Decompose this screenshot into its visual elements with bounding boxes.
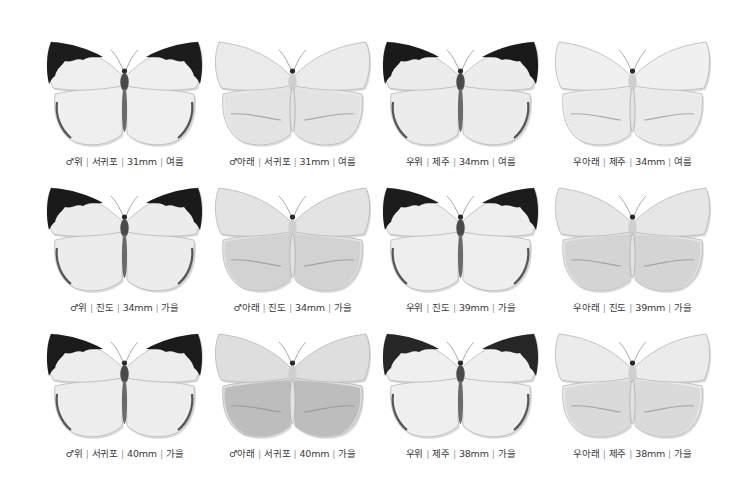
caption-separator: |: [157, 156, 166, 167]
butterfly-image: [373, 322, 548, 447]
wing-side: 아래: [582, 302, 600, 313]
wing-side: 위: [74, 448, 83, 459]
butterfly-image: [37, 30, 212, 155]
wing-size: 39mm: [635, 302, 665, 313]
caption-separator: |: [489, 156, 498, 167]
caption-separator: |: [450, 448, 459, 459]
caption-separator: |: [286, 302, 295, 313]
specimen-plate: ♂위|서귀포|31mm|여름: [0, 0, 751, 493]
sex-symbol: ♂: [66, 156, 74, 167]
caption-separator: |: [423, 156, 432, 167]
specimen-cell-r3-c1: ♂위|서귀포|40mm|가을: [37, 322, 212, 468]
caption-separator: |: [600, 156, 609, 167]
butterfly-image: [205, 322, 380, 447]
locality: 제주: [432, 448, 450, 459]
season: 가을: [338, 448, 356, 459]
caption-separator: |: [329, 448, 338, 459]
wing-size: 40mm: [299, 448, 329, 459]
butterfly-image: [545, 322, 720, 447]
season: 가을: [498, 302, 516, 313]
specimen-cell-r2-c1: ♂위|진도|34mm|가을: [37, 176, 212, 322]
caption-separator: |: [626, 448, 635, 459]
specimen-cell-r1-c4: 우아래|제주|34mm|여름: [545, 30, 720, 176]
locality: 서귀포: [92, 448, 118, 459]
caption-separator: |: [114, 302, 123, 313]
caption-separator: |: [489, 448, 498, 459]
caption-separator: |: [600, 302, 609, 313]
wing-size: 38mm: [635, 448, 665, 459]
butterfly-image: [545, 176, 720, 301]
wing-side: 아래: [242, 302, 260, 313]
wing-side: 위: [78, 302, 87, 313]
specimen-cell-r2-c4: 우아래|진도|39mm|가을: [545, 176, 720, 322]
specimen-caption: 우아래|제주|38mm|가을: [545, 446, 720, 460]
locality: 제주: [609, 156, 627, 167]
wing-side: 위: [414, 156, 423, 167]
specimen-caption: ♂위|서귀포|40mm|가을: [37, 446, 212, 460]
caption-separator: |: [450, 302, 459, 313]
wing-size: 31mm: [299, 156, 329, 167]
specimen-cell-r3-c4: 우아래|제주|38mm|가을: [545, 322, 720, 468]
butterfly-image: [545, 30, 720, 155]
locality: 제주: [432, 156, 450, 167]
wing-side: 아래: [582, 448, 600, 459]
wing-side: 위: [414, 302, 423, 313]
specimen-caption: 우아래|진도|39mm|가을: [545, 300, 720, 314]
season: 가을: [161, 302, 179, 313]
wing-side: 위: [74, 156, 83, 167]
caption-separator: |: [665, 156, 674, 167]
sex-symbol: 우: [573, 448, 582, 459]
wing-side: 아래: [582, 156, 600, 167]
caption-separator: |: [626, 302, 635, 313]
sex-symbol: ♂: [234, 302, 242, 313]
sex-symbol: ♂: [70, 302, 78, 313]
caption-separator: |: [489, 302, 498, 313]
specimen-caption: 우위|제주|38mm|가을: [373, 446, 548, 460]
caption-separator: |: [600, 448, 609, 459]
wing-size: 34mm: [295, 302, 325, 313]
specimen-cell-r1-c3: 우위|제주|34mm|여름: [373, 30, 548, 176]
specimen-caption: 우아래|제주|34mm|여름: [545, 154, 720, 168]
specimen-caption: ♂위|서귀포|31mm|여름: [37, 154, 212, 168]
caption-separator: |: [157, 448, 166, 459]
wing-size: 31mm: [127, 156, 157, 167]
locality: 진도: [96, 302, 114, 313]
wing-size: 34mm: [123, 302, 153, 313]
caption-separator: |: [83, 448, 92, 459]
specimen-cell-r2-c3: 우위|진도|39mm|가을: [373, 176, 548, 322]
wing-size: 34mm: [635, 156, 665, 167]
specimen-cell-r1-c2: ♂아래|서귀포|31mm|여름: [205, 30, 380, 176]
locality: 서귀포: [264, 156, 290, 167]
season: 여름: [338, 156, 356, 167]
locality: 서귀포: [92, 156, 118, 167]
specimen-caption: ♂위|진도|34mm|가을: [37, 300, 212, 314]
specimen-cell-r1-c1: ♂위|서귀포|31mm|여름: [37, 30, 212, 176]
season: 가을: [334, 302, 352, 313]
specimen-caption: 우위|진도|39mm|가을: [373, 300, 548, 314]
caption-separator: |: [329, 156, 338, 167]
caption-separator: |: [255, 156, 264, 167]
caption-separator: |: [255, 448, 264, 459]
caption-separator: |: [87, 302, 96, 313]
caption-separator: |: [118, 448, 127, 459]
butterfly-image: [205, 176, 380, 301]
wing-size: 38mm: [459, 448, 489, 459]
wing-side: 아래: [237, 448, 255, 459]
season: 가을: [674, 302, 692, 313]
season: 가을: [498, 448, 516, 459]
butterfly-image: [373, 30, 548, 155]
specimen-cell-r2-c2: ♂아래|진도|34mm|가을: [205, 176, 380, 322]
locality: 진도: [432, 302, 450, 313]
butterfly-image: [37, 176, 212, 301]
locality: 제주: [609, 448, 627, 459]
specimen-cell-r3-c2: ♂아래|서귀포|40mm|가을: [205, 322, 380, 468]
sex-symbol: 우: [573, 156, 582, 167]
season: 가을: [674, 448, 692, 459]
specimen-caption: ♂아래|진도|34mm|가을: [205, 300, 380, 314]
caption-separator: |: [423, 302, 432, 313]
wing-side: 위: [414, 448, 423, 459]
butterfly-image: [37, 322, 212, 447]
caption-separator: |: [665, 448, 674, 459]
caption-separator: |: [450, 156, 459, 167]
caption-separator: |: [325, 302, 334, 313]
